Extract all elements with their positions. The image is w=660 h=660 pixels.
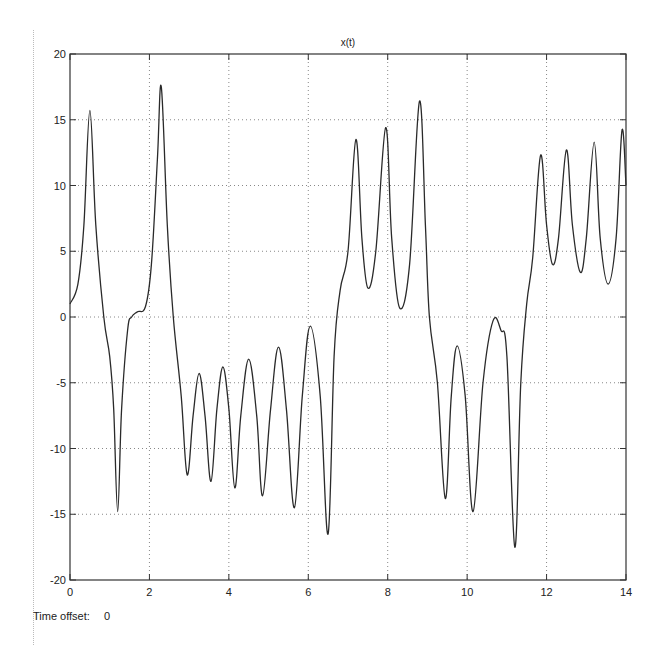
y-tick-label: -15 (50, 508, 66, 520)
y-axis-tick-labels: -20-15-10-505101520 (50, 48, 66, 586)
x-tick-label: 14 (620, 586, 632, 598)
x-tick-label: 6 (305, 586, 311, 598)
y-tick-label: -10 (50, 443, 66, 455)
y-tick-label: 20 (54, 48, 66, 60)
grid-lines (70, 54, 626, 580)
x-tick-label: 4 (226, 586, 232, 598)
x-axis-tick-labels: 02468101214 (67, 586, 632, 598)
signal-line (70, 85, 626, 547)
x-tick-label: 0 (67, 586, 73, 598)
y-tick-label: 0 (60, 311, 66, 323)
time-offset-readout: Time offset: 0 (33, 610, 110, 622)
y-tick-label: -20 (50, 574, 66, 586)
time-offset-value: 0 (104, 610, 110, 622)
x-tick-label: 2 (146, 586, 152, 598)
time-offset-label: Time offset: (33, 610, 90, 622)
y-tick-label: 10 (54, 180, 66, 192)
x-tick-label: 12 (540, 586, 552, 598)
y-tick-label: 5 (60, 245, 66, 257)
chart-title: x(t) (341, 37, 355, 48)
y-tick-label: 15 (54, 114, 66, 126)
y-tick-label: -5 (56, 377, 66, 389)
scope-plot: x(t) 02468101214 -20-15-10-505101520 (0, 0, 660, 660)
x-tick-label: 10 (461, 586, 473, 598)
x-tick-label: 8 (385, 586, 391, 598)
